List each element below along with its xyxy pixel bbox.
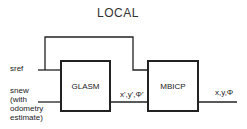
snew-label: snew (with odometry estimate) <box>10 86 43 122</box>
intermediate-signal-label: x',y',Φ' <box>120 90 143 99</box>
mbicp-label: MBICP <box>148 82 198 91</box>
output-signal-label: x,y,Φ <box>215 88 233 97</box>
snew-label-line: estimate) <box>10 113 43 122</box>
snew-label-line: odometry <box>10 104 43 113</box>
snew-label-line: snew <box>10 86 43 95</box>
sref-label: sref <box>10 64 23 73</box>
snew-label-line: (with <box>10 95 43 104</box>
glasm-label: GLASM <box>61 82 110 91</box>
